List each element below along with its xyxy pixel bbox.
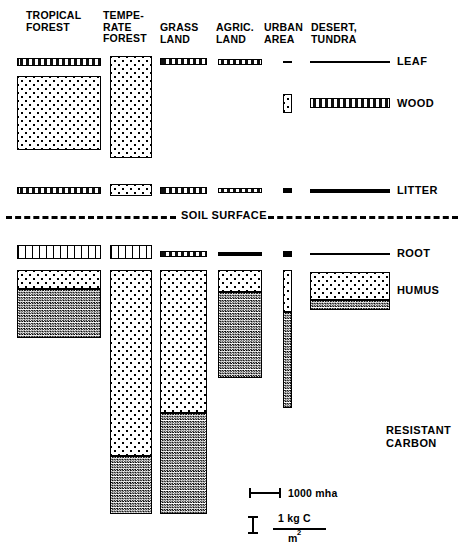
row-label-wood: WOOD <box>397 97 434 110</box>
leaf-bar-agric-land <box>218 59 262 65</box>
root-bar-desert-tundra <box>310 253 390 255</box>
humus-bar-desert-tundra <box>310 272 390 300</box>
resistant-carbon-bar-grass-land <box>160 413 207 514</box>
row-label-leaf: LEAF <box>397 55 427 68</box>
resistant-carbon-bar-urban-area <box>283 312 292 408</box>
humus-bar-agric-land <box>218 270 262 292</box>
column-header-temperate-forest: TEMPE- RATE FOREST <box>103 10 147 45</box>
column-header-agric-land: AGRIC. LAND <box>216 22 254 45</box>
column-header-grass-land: GRASS LAND <box>160 22 198 45</box>
resistant-carbon-bar-agric-land <box>218 292 262 378</box>
row-label-root: ROOT <box>397 247 430 260</box>
carbon-scale-cap-top <box>248 516 258 518</box>
column-header-tropical-forest: TROPICAL FOREST <box>26 10 81 33</box>
root-bar-urban-area <box>283 251 292 257</box>
row-label-resistant-carbon: RESISTANT CARBON <box>386 424 451 449</box>
area-scale-cap-right <box>279 488 281 498</box>
litter-bar-temperate-forest <box>110 184 152 196</box>
wood-bar-tropical-forest <box>17 76 101 150</box>
soil-surface-line-right <box>268 216 458 219</box>
resistant-carbon-bar-desert-tundra <box>310 300 390 310</box>
column-header-desert-tundra: DESERT, TUNDRA <box>311 22 357 45</box>
leaf-bar-tropical-forest <box>17 58 101 66</box>
area-scale-cap-left <box>249 488 251 498</box>
row-label-litter: LITTER <box>397 184 438 197</box>
resistant-carbon-bar-temperate-forest <box>110 456 152 514</box>
carbon-scale-numerator: 1 kg C <box>278 512 311 524</box>
humus-bar-urban-area <box>283 270 292 312</box>
litter-bar-urban-area <box>283 188 292 193</box>
root-bar-grass-land <box>160 251 207 257</box>
carbon-scale-cap-bottom <box>248 532 258 534</box>
root-bar-agric-land <box>218 252 262 256</box>
carbon-pool-diagram: TROPICAL FOREST TEMPE- RATE FOREST GRASS… <box>0 0 463 556</box>
wood-bar-urban-area <box>283 94 292 113</box>
wood-bar-temperate-forest <box>110 56 152 158</box>
root-bar-tropical-forest <box>17 245 101 259</box>
soil-surface-label: SOIL SURFACE <box>178 209 270 221</box>
row-label-humus: HUMUS <box>397 284 439 297</box>
column-header-urban-area: URBAN AREA <box>264 22 303 45</box>
area-scale-label: 1000 mha <box>288 487 337 499</box>
litter-bar-agric-land <box>218 188 262 193</box>
area-scale-bar <box>249 492 281 494</box>
leaf-bar-urban-area <box>283 61 292 63</box>
root-bar-temperate-forest <box>110 245 152 259</box>
litter-bar-tropical-forest <box>17 187 101 194</box>
humus-bar-grass-land <box>160 270 207 413</box>
leaf-bar-grass-land <box>160 58 207 65</box>
soil-surface-line-left <box>6 216 176 219</box>
litter-bar-grass-land <box>160 187 207 194</box>
humus-bar-tropical-forest <box>17 270 101 289</box>
carbon-scale-exponent: 2 <box>297 528 301 537</box>
wood-bar-desert-tundra <box>310 98 390 108</box>
resistant-carbon-bar-tropical-forest <box>17 289 101 338</box>
humus-bar-temperate-forest <box>110 270 152 456</box>
leaf-bar-desert-tundra <box>310 61 390 63</box>
litter-bar-desert-tundra <box>310 189 390 193</box>
